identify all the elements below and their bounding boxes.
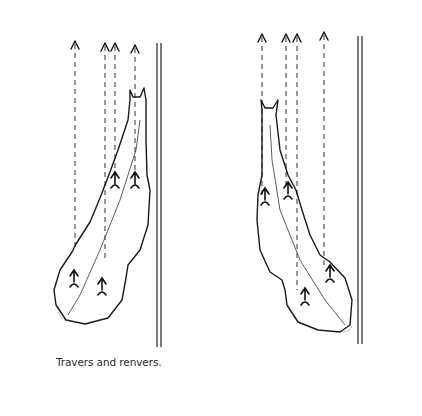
travers-renvers-diagram (0, 0, 422, 416)
front-hoof-icon (111, 172, 119, 188)
hind-hoof-icon (98, 278, 106, 295)
arena-wall (358, 36, 362, 344)
front-hoof-icon (284, 182, 292, 199)
arena-wall (157, 43, 161, 347)
hind-hoof-icon (70, 270, 78, 287)
hoof-track-lines (71, 41, 139, 262)
figure-caption: Travers and renvers. (56, 356, 162, 368)
horse-spine (68, 120, 140, 315)
hind-hoof-icon (326, 265, 334, 282)
front-hoof-icon (131, 172, 139, 188)
travers-panel (54, 41, 161, 347)
renvers-panel (257, 32, 362, 344)
hind-hoof-icon (301, 288, 309, 305)
